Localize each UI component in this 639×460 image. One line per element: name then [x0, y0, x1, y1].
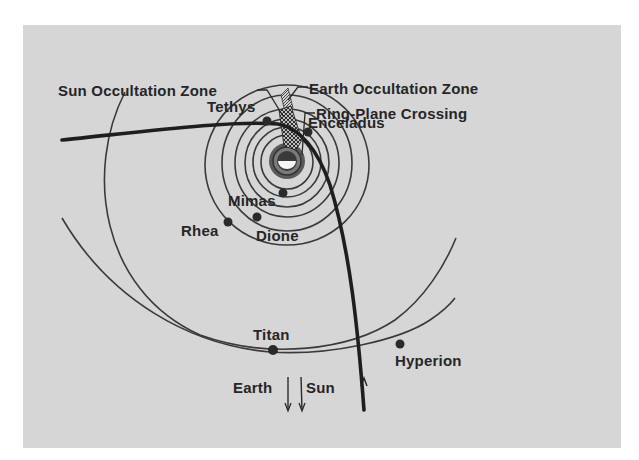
- sun-direction-arrow-icon: [299, 377, 305, 411]
- saturn: [269, 143, 305, 179]
- moon-titan: [268, 345, 278, 355]
- moon-mimas: [279, 189, 288, 198]
- label-sun-direction: Sun: [306, 379, 335, 396]
- moon-rhea: [224, 218, 233, 227]
- label-sun-occultation-zone: Sun Occultation Zone: [58, 82, 217, 99]
- label-earth-occultation-zone: Earth Occultation Zone: [309, 80, 478, 97]
- label-tethys: Tethys: [207, 98, 255, 115]
- label-dione: Dione: [256, 227, 299, 244]
- label-hyperion: Hyperion: [395, 352, 462, 369]
- moon-dione: [253, 213, 262, 222]
- label-mimas: Mimas: [228, 192, 276, 209]
- earth-direction-arrow-icon: [285, 377, 291, 411]
- saturn-flyby-diagram: Sun Occultation Zone Earth Occultation Z…: [0, 0, 639, 460]
- label-titan: Titan: [253, 326, 290, 343]
- label-earth-direction: Earth: [233, 379, 272, 396]
- moon-hyperion: [396, 340, 405, 349]
- label-enceladus: Enceladus: [308, 114, 385, 131]
- label-rhea: Rhea: [181, 222, 219, 239]
- moon-tethys: [263, 117, 272, 126]
- spacecraft-trajectory: [62, 123, 364, 410]
